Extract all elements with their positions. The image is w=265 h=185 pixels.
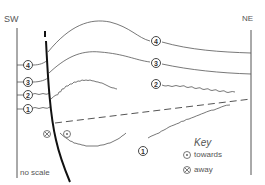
layer-4-left-label: 4: [24, 61, 33, 70]
layer-1-left: [17, 107, 50, 109]
towards-symbol: [64, 131, 71, 138]
layer-2-right: [51, 80, 235, 99]
svg-text:4: 4: [26, 62, 30, 69]
svg-text:1: 1: [26, 106, 30, 113]
key-towards-icon: [184, 152, 191, 159]
layer-3-left-label: 3: [24, 78, 33, 87]
key-title: Key: [194, 137, 211, 148]
layer-4-right: [48, 21, 251, 53]
svg-text:1: 1: [141, 148, 145, 155]
svg-text:3: 3: [26, 79, 30, 86]
layer-3-right-label: 3: [152, 59, 161, 68]
layer-2-right-label: 2: [152, 80, 161, 89]
dashed-line: [55, 99, 251, 123]
cross-section-diagram: 4 3 2 1 4 3 2 1: [0, 0, 265, 185]
svg-text:2: 2: [26, 92, 30, 99]
layer-4-right-label: 4: [152, 37, 161, 46]
svg-text:4: 4: [154, 38, 158, 45]
away-symbol: [44, 131, 51, 138]
key-away-icon: [184, 167, 191, 174]
layer-3-left: [17, 77, 49, 82]
key-away-label: away: [194, 165, 213, 174]
layer-2-left-label: 2: [24, 91, 33, 100]
svg-text:3: 3: [154, 60, 158, 67]
layer-3-right: [49, 52, 251, 74]
fault-line: [46, 41, 70, 182]
svg-text:2: 2: [154, 81, 158, 88]
key-towards-label: towards: [194, 150, 222, 159]
layer-2-left: [17, 93, 49, 95]
layer-1-left-label: 1: [24, 105, 33, 114]
layer-1-right-label: 1: [139, 147, 148, 156]
